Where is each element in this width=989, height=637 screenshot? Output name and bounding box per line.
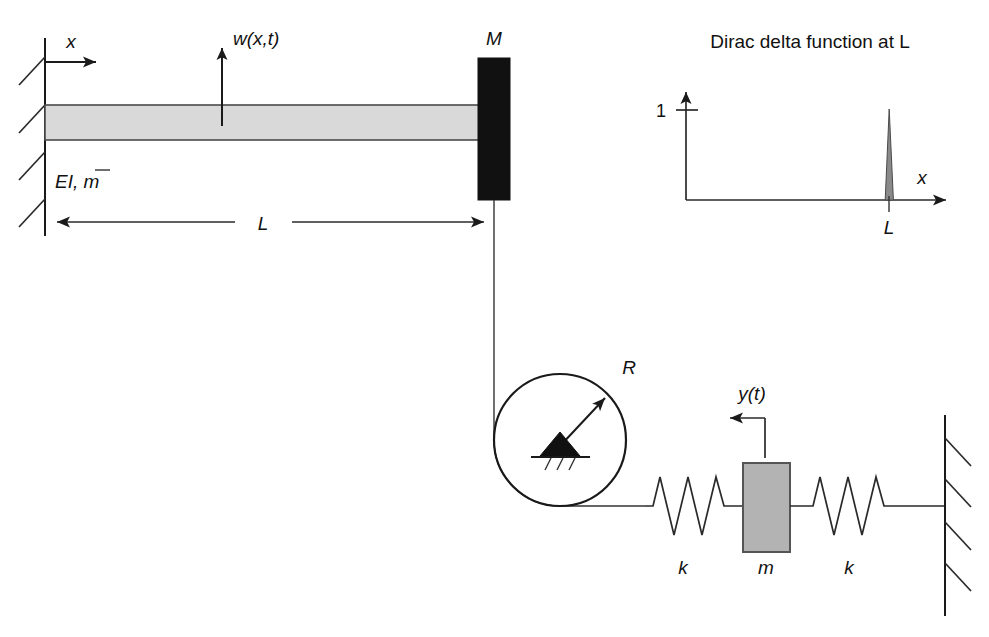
tip-mass-block: [478, 58, 510, 200]
figure-root: x w(x,t) EI, m M L: [0, 0, 989, 637]
hatch-mark: [19, 57, 45, 85]
mass-displacement-indicator: y(t): [730, 383, 766, 458]
beam-element: [45, 105, 497, 140]
dirac-x-axis-label: x: [916, 167, 928, 188]
dirac-impulse-location-label: L: [884, 217, 895, 238]
length-dimension: L: [45, 213, 484, 236]
left-spring: [645, 477, 743, 535]
pulley-group: R: [494, 357, 636, 506]
hatch-mark: [945, 522, 971, 550]
right-spring-label: k: [844, 557, 855, 578]
beam-flexural-label: EI: [55, 171, 74, 192]
x-axis-label: x: [65, 31, 77, 52]
hatch-mark: [945, 438, 971, 466]
hatch-mark: [557, 458, 563, 470]
spring-mass-system-group: k m y(t) k: [645, 383, 971, 616]
transverse-displacement-label: w(x,t): [233, 28, 279, 49]
dirac-delta-plot-group: Dirac delta function at L 1 x L: [656, 31, 946, 238]
beam-properties-label: EI, m: [55, 170, 110, 192]
length-dimension-label: L: [258, 213, 269, 234]
hatch-mark: [569, 458, 575, 470]
hatch-mark: [545, 458, 551, 470]
tip-mass-label: M: [486, 28, 502, 49]
beam-label-separator: ,: [73, 171, 84, 192]
dirac-plot-title: Dirac delta function at L: [710, 31, 910, 52]
right-support-hatching: [945, 438, 971, 591]
dirac-impulse-spike: [885, 109, 893, 200]
beam-mass-per-length-label: m: [84, 171, 100, 192]
right-spring: [790, 477, 945, 535]
mass-block: [743, 463, 790, 552]
hatch-mark: [945, 479, 971, 507]
pulley-ground-hatching: [545, 458, 575, 470]
hatch-mark: [945, 563, 971, 591]
pulley-pivot-triangle: [540, 432, 580, 456]
dirac-y-tick-label: 1: [656, 101, 666, 121]
pulley-radius-arrow: [560, 398, 605, 446]
pulley-radius-label: R: [622, 357, 636, 378]
svg-text:EI, m: EI, m: [55, 171, 99, 192]
left-spring-label: k: [678, 557, 689, 578]
engineering-diagram-canvas: x w(x,t) EI, m M L: [0, 0, 989, 637]
hatch-mark: [19, 105, 45, 133]
hatch-mark: [19, 152, 45, 180]
fixed-support-hatching: [19, 57, 45, 227]
mass-displacement-label: y(t): [736, 383, 765, 404]
mass-block-label: m: [758, 557, 774, 578]
cantilever-beam-group: x w(x,t) EI, m M L: [19, 28, 510, 236]
hatch-mark: [19, 199, 45, 227]
